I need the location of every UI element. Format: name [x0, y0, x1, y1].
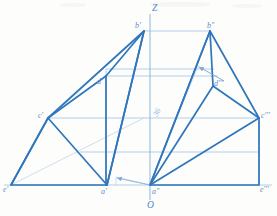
edge-e-prime-c-prime: [11, 118, 48, 185]
edge-c-prime-a-prime: [48, 118, 107, 185]
point-label-d-triple-prime: d''': [214, 80, 223, 88]
edge-c-triple-a-double: [150, 118, 259, 185]
scan-artifact: [60, 3, 86, 7]
point-label-e-triple-prime: e''': [260, 186, 269, 194]
edge-d-triple-c-triple: [213, 86, 259, 118]
point-label-c-prime: c': [38, 112, 43, 120]
dimension-arrows: [117, 67, 224, 185]
point-label-a-double-prime: a": [152, 188, 159, 196]
point-label-a-prime: a': [101, 188, 107, 196]
drawing-canvas: Z O b' b" d' d''' c' c''' e' e''' a' a" …: [0, 0, 277, 216]
edge-b-double-a-double: [150, 31, 210, 185]
point-label-c-triple-prime: c''': [261, 112, 270, 120]
faint-construction-lines: [11, 31, 259, 185]
point-label-b-prime: b': [135, 22, 141, 30]
origin-label: O: [147, 201, 154, 211]
edge-d-triple-a-double: [150, 86, 213, 185]
projection-diagram: [0, 0, 277, 216]
point-label-b-double-prime: b": [207, 22, 214, 30]
point-label-d-prime: d': [97, 78, 103, 86]
scan-artifact: [232, 4, 262, 8]
thick-object-lines: [11, 31, 259, 185]
point-label-e-prime: e': [3, 186, 8, 194]
scan-artifact: [150, 2, 210, 7]
arrow-lower: [117, 178, 150, 185]
edge-b-double-d-triple: [210, 31, 213, 86]
z-axis-label: Z: [152, 4, 157, 14]
right-outline-b-c-e-a: [150, 31, 259, 185]
